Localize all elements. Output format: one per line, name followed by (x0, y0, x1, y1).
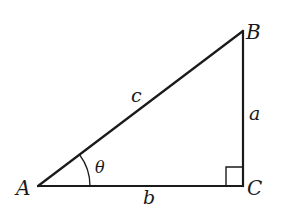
side-label-a: a (249, 104, 260, 123)
side-label-c: c (131, 86, 142, 105)
vertex-label-a: A (16, 178, 30, 198)
right-angle-marker (226, 167, 243, 186)
angle-label-theta: θ (95, 160, 105, 176)
right-triangle-diagram: A B C c a b θ (0, 0, 283, 216)
side-c-line (38, 31, 243, 186)
vertex-label-b: B (246, 22, 261, 42)
side-label-b: b (143, 188, 155, 207)
vertex-label-c: C (247, 178, 262, 198)
triangle-canvas (0, 0, 283, 216)
angle-theta-arc (80, 155, 91, 186)
